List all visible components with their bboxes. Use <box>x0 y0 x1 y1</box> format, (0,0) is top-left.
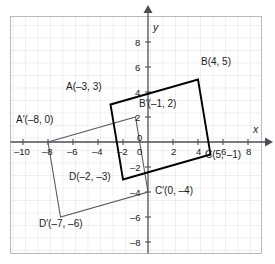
y-tick-label-neg2: –2 <box>130 163 141 173</box>
x-tick-label-neg4: –4 <box>92 147 103 157</box>
y-tick-label-6: 6 <box>135 63 140 73</box>
x-tick-label-neg10: –10 <box>14 147 30 157</box>
y-tick-label-neg4: –4 <box>130 188 141 198</box>
vertex-label-c-prime: C′(0, –4) <box>155 186 193 196</box>
x-tick-label-2: 2 <box>171 147 176 157</box>
x-tick-label-0: 0 <box>137 147 142 157</box>
y-tick-label-2: 2 <box>135 113 140 123</box>
y-axis-label: y <box>153 22 158 33</box>
x-axis-arrow <box>265 138 273 147</box>
vertex-label-b: B(4, 5) <box>201 57 231 67</box>
vertex-label-b-prime: B′(–1, 2) <box>139 99 176 109</box>
y-tick-label-0: 0 <box>137 133 142 143</box>
y-tick-label-8: 8 <box>135 38 140 48</box>
x-tick-label-neg6: –6 <box>67 147 78 157</box>
x-tick-label-neg2: –2 <box>117 147 128 157</box>
coordinate-plane-figure: –10 –8 –6 –4 –2 0 2 4 6 8 8 6 4 2 0 –2 –… <box>0 0 275 264</box>
vertex-label-d: D(–2, –3) <box>69 172 111 182</box>
y-tick-label-neg6: –6 <box>130 213 141 223</box>
x-tick-label-4: 4 <box>196 147 201 157</box>
y-tick-label-4: 4 <box>135 88 140 98</box>
vertex-label-a: A(–3, 3) <box>66 82 102 92</box>
y-axis-arrow <box>144 5 153 13</box>
x-axis-label: x <box>253 124 258 135</box>
x-tick-label-neg8: –8 <box>42 147 53 157</box>
y-tick-label-neg8: –8 <box>130 238 141 248</box>
vertex-label-a-prime: A′(–8, 0) <box>16 115 53 125</box>
vertex-label-d-prime: D′(–7, –6) <box>39 219 83 229</box>
vertex-label-c: C(5, –1) <box>205 150 241 160</box>
x-tick-label-8: 8 <box>246 147 251 157</box>
